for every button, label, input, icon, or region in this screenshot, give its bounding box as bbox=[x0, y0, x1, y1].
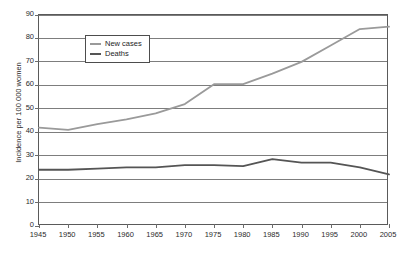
y-tick-label: 10 bbox=[26, 198, 34, 206]
y-axis-tick-labels: 0102030405060708090 bbox=[14, 14, 34, 225]
x-axis-tick-labels: 1945195019551960196519701975198019851990… bbox=[38, 231, 388, 243]
x-tick-label: 2000 bbox=[350, 231, 367, 239]
y-tick-label: 90 bbox=[26, 10, 34, 18]
y-tick-label: 60 bbox=[26, 81, 34, 89]
legend: New cases Deaths bbox=[85, 35, 150, 63]
plot-area: New cases Deaths bbox=[38, 14, 388, 225]
y-tick-label: 30 bbox=[26, 151, 34, 159]
legend-label-new-cases: New cases bbox=[105, 40, 142, 48]
x-tick-label: 1995 bbox=[321, 231, 338, 239]
legend-label-deaths: Deaths bbox=[105, 50, 129, 58]
y-tick-label: 70 bbox=[26, 57, 34, 65]
y-tick-label: 20 bbox=[26, 174, 34, 182]
legend-item-new-cases: New cases bbox=[90, 39, 142, 49]
legend-swatch-new-cases-icon bbox=[90, 43, 101, 45]
x-tick-label: 2005 bbox=[380, 231, 397, 239]
x-tick-label: 1970 bbox=[175, 231, 192, 239]
legend-swatch-deaths-icon bbox=[90, 53, 101, 55]
x-tick-label: 1950 bbox=[59, 231, 76, 239]
line-chart: Incidence per 100 000 women 010203040506… bbox=[0, 0, 403, 259]
x-tick-label: 1975 bbox=[205, 231, 222, 239]
x-tick-label: 1980 bbox=[234, 231, 251, 239]
x-tick-label: 1985 bbox=[263, 231, 280, 239]
x-tick-label: 1945 bbox=[30, 231, 47, 239]
x-tick-label: 1955 bbox=[88, 231, 105, 239]
y-tick-label: 50 bbox=[26, 104, 34, 112]
y-tick-label: 0 bbox=[30, 221, 34, 229]
x-tick-mark bbox=[389, 224, 390, 228]
x-tick-label: 1960 bbox=[117, 231, 134, 239]
x-tick-label: 1965 bbox=[146, 231, 163, 239]
y-tick-label: 40 bbox=[26, 127, 34, 135]
y-tick-label: 80 bbox=[26, 34, 34, 42]
x-tick-label: 1990 bbox=[292, 231, 309, 239]
legend-item-deaths: Deaths bbox=[90, 49, 142, 59]
series-line-deaths bbox=[39, 159, 389, 174]
